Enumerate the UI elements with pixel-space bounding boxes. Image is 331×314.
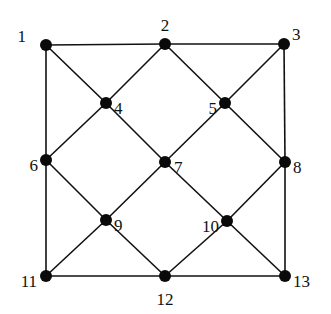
node-label-12: 12 [157,290,174,309]
graph-diagram: 12345678910111213 [0,0,331,314]
node-11 [40,270,52,282]
edge-2-4 [106,44,165,103]
edge-2-5 [165,44,225,103]
node-label-5: 5 [209,99,218,118]
node-1 [40,39,52,51]
node-label-2: 2 [161,16,170,35]
edge-3-8 [284,44,285,162]
node-label-13: 13 [293,272,310,291]
node-3 [278,38,290,50]
node-4 [100,97,112,109]
node-label-4: 4 [114,99,123,118]
node-label-7: 7 [174,158,183,177]
node-label-11: 11 [21,272,37,291]
node-8 [279,156,291,168]
node-12 [159,270,171,282]
edge-5-8 [225,103,285,162]
edge-9-11 [46,220,106,276]
node-label-1: 1 [18,27,27,46]
node-label-8: 8 [293,158,302,177]
edge-8-10 [227,162,285,221]
node-label-6: 6 [30,156,39,175]
edge-4-6 [46,103,106,160]
node-5 [219,97,231,109]
node-2 [159,38,171,50]
node-7 [159,156,171,168]
edge-1-4 [46,45,106,103]
edge-10-13 [227,221,285,276]
node-label-10: 10 [202,217,219,236]
edge-1-2 [46,44,165,45]
graph-canvas: 12345678910111213 [0,0,331,314]
node-13 [279,270,291,282]
node-label-9: 9 [114,216,123,235]
edge-3-5 [225,44,284,103]
node-6 [40,154,52,166]
node-9 [100,214,112,226]
node-label-3: 3 [292,25,301,44]
node-10 [221,215,233,227]
edge-6-9 [46,160,106,220]
edge-7-9 [106,162,165,220]
